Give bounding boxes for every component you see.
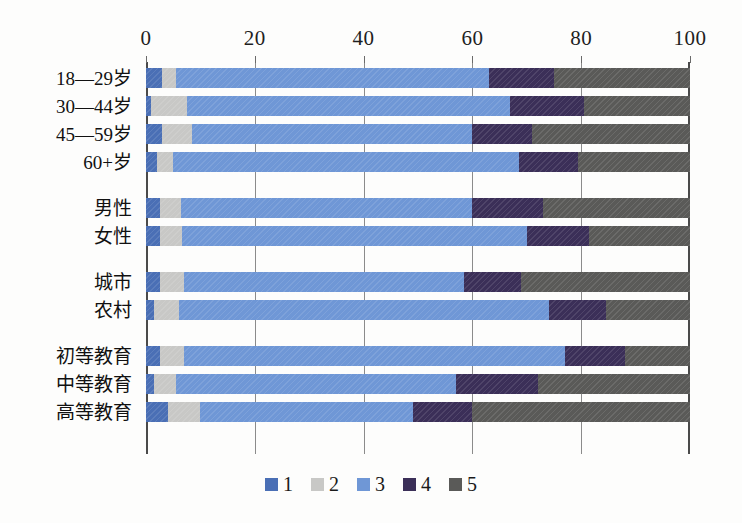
bar-segment-series-1[interactable] bbox=[146, 374, 154, 394]
bar-segment-series-1[interactable] bbox=[146, 68, 162, 88]
bar-segment-series-1[interactable] bbox=[146, 124, 162, 144]
bar-segment-series-1[interactable] bbox=[146, 402, 168, 422]
bar-segment-series-4[interactable] bbox=[413, 402, 473, 422]
x-tick-label-0: 0 bbox=[141, 26, 152, 50]
bar-segment-series-5[interactable] bbox=[532, 124, 690, 144]
bar-segment-series-2[interactable] bbox=[160, 346, 184, 366]
bar-segment-series-2[interactable] bbox=[157, 152, 173, 172]
gridline-100 bbox=[688, 62, 690, 454]
bar-segment-series-5[interactable] bbox=[521, 272, 690, 292]
bar-row[interactable] bbox=[146, 198, 690, 218]
category-label-3: 60+岁 bbox=[83, 153, 132, 173]
bar-segment-series-2[interactable] bbox=[162, 124, 192, 144]
gridline-60 bbox=[472, 62, 473, 454]
legend-label: 5 bbox=[467, 474, 477, 494]
category-label-7: 农村 bbox=[94, 301, 132, 321]
bar-segment-series-3[interactable] bbox=[184, 272, 464, 292]
bar-segment-series-5[interactable] bbox=[606, 300, 690, 320]
bar-segment-series-2[interactable] bbox=[168, 402, 201, 422]
legend-item-3[interactable]: 3 bbox=[357, 474, 385, 494]
category-label-1: 30—44岁 bbox=[56, 97, 132, 117]
x-tick-label-100: 100 bbox=[674, 26, 707, 50]
x-tick-label-40: 40 bbox=[353, 26, 375, 50]
gridline-0 bbox=[146, 62, 148, 454]
bar-segment-series-5[interactable] bbox=[578, 152, 690, 172]
bar-segment-series-4[interactable] bbox=[527, 226, 590, 246]
bar-segment-series-5[interactable] bbox=[584, 96, 690, 116]
tick-mark-100 bbox=[690, 56, 691, 63]
legend-item-5[interactable]: 5 bbox=[449, 474, 477, 494]
category-label-4: 男性 bbox=[94, 199, 132, 219]
bar-segment-series-3[interactable] bbox=[192, 124, 472, 144]
bar-row[interactable] bbox=[146, 346, 690, 366]
bar-row[interactable] bbox=[146, 96, 690, 116]
stacked-bar-chart: 020406080100 18—29岁30—44岁45—59岁60+岁男性女性城… bbox=[0, 0, 742, 523]
bar-segment-series-4[interactable] bbox=[549, 300, 606, 320]
bar-segment-series-1[interactable] bbox=[146, 152, 157, 172]
bar-segment-series-3[interactable] bbox=[173, 152, 518, 172]
legend-label: 2 bbox=[329, 474, 339, 494]
legend-label: 1 bbox=[283, 474, 293, 494]
bar-segment-series-2[interactable] bbox=[162, 68, 176, 88]
x-tick-label-60: 60 bbox=[461, 26, 483, 50]
category-label-8: 初等教育 bbox=[56, 347, 132, 367]
bar-segment-series-5[interactable] bbox=[625, 346, 690, 366]
bar-segment-series-5[interactable] bbox=[538, 374, 690, 394]
legend-label: 3 bbox=[375, 474, 385, 494]
bar-segment-series-4[interactable] bbox=[472, 124, 532, 144]
bar-segment-series-5[interactable] bbox=[589, 226, 690, 246]
bar-segment-series-2[interactable] bbox=[151, 96, 186, 116]
x-tick-label-20: 20 bbox=[244, 26, 266, 50]
bar-segment-series-3[interactable] bbox=[182, 226, 526, 246]
legend-item-4[interactable]: 4 bbox=[403, 474, 431, 494]
bar-segment-series-2[interactable] bbox=[160, 226, 183, 246]
bar-segment-series-1[interactable] bbox=[146, 346, 160, 366]
legend-swatch-icon-2 bbox=[311, 478, 324, 491]
bar-segment-series-3[interactable] bbox=[187, 96, 511, 116]
bar-segment-series-3[interactable] bbox=[184, 346, 565, 366]
bar-row[interactable] bbox=[146, 300, 690, 320]
bar-segment-series-4[interactable] bbox=[565, 346, 625, 366]
bar-segment-series-2[interactable] bbox=[154, 374, 176, 394]
bar-segment-series-4[interactable] bbox=[510, 96, 583, 116]
bar-segment-series-3[interactable] bbox=[176, 68, 489, 88]
bar-segment-series-3[interactable] bbox=[200, 402, 412, 422]
tick-mark-80 bbox=[581, 56, 582, 63]
legend-swatch-icon-5 bbox=[449, 478, 462, 491]
legend-item-1[interactable]: 1 bbox=[265, 474, 293, 494]
bar-segment-series-5[interactable] bbox=[472, 402, 690, 422]
bar-segment-series-1[interactable] bbox=[146, 300, 154, 320]
bar-segment-series-4[interactable] bbox=[472, 198, 543, 218]
bar-row[interactable] bbox=[146, 226, 690, 246]
bar-row[interactable] bbox=[146, 152, 690, 172]
bar-row[interactable] bbox=[146, 374, 690, 394]
bar-segment-series-4[interactable] bbox=[456, 374, 538, 394]
bar-segment-series-1[interactable] bbox=[146, 272, 160, 292]
legend-item-2[interactable]: 2 bbox=[311, 474, 339, 494]
bar-segment-series-3[interactable] bbox=[176, 374, 456, 394]
bar-segment-series-3[interactable] bbox=[179, 300, 549, 320]
bar-segment-series-1[interactable] bbox=[146, 226, 160, 246]
bar-segment-series-4[interactable] bbox=[464, 272, 521, 292]
bar-segment-series-2[interactable] bbox=[154, 300, 178, 320]
tick-mark-20 bbox=[255, 56, 256, 63]
category-label-9: 中等教育 bbox=[56, 375, 132, 395]
plot-area bbox=[146, 62, 690, 454]
x-axis-tick-labels: 020406080100 bbox=[146, 26, 690, 58]
y-axis-category-labels: 18—29岁30—44岁45—59岁60+岁男性女性城市农村初等教育中等教育高等… bbox=[0, 62, 140, 454]
bar-row[interactable] bbox=[146, 68, 690, 88]
bar-segment-series-5[interactable] bbox=[543, 198, 690, 218]
bar-row[interactable] bbox=[146, 272, 690, 292]
bar-segment-series-4[interactable] bbox=[489, 68, 554, 88]
legend-label: 4 bbox=[421, 474, 431, 494]
bar-segment-series-2[interactable] bbox=[160, 272, 184, 292]
bar-segment-series-4[interactable] bbox=[519, 152, 579, 172]
bar-segment-series-2[interactable] bbox=[160, 198, 182, 218]
bar-segment-series-3[interactable] bbox=[181, 198, 472, 218]
bar-segment-series-5[interactable] bbox=[554, 68, 690, 88]
bar-row[interactable] bbox=[146, 124, 690, 144]
chart-legend: 12345 bbox=[0, 474, 742, 494]
bar-segment-series-1[interactable] bbox=[146, 198, 160, 218]
bar-row[interactable] bbox=[146, 402, 690, 422]
legend-swatch-icon-4 bbox=[403, 478, 416, 491]
